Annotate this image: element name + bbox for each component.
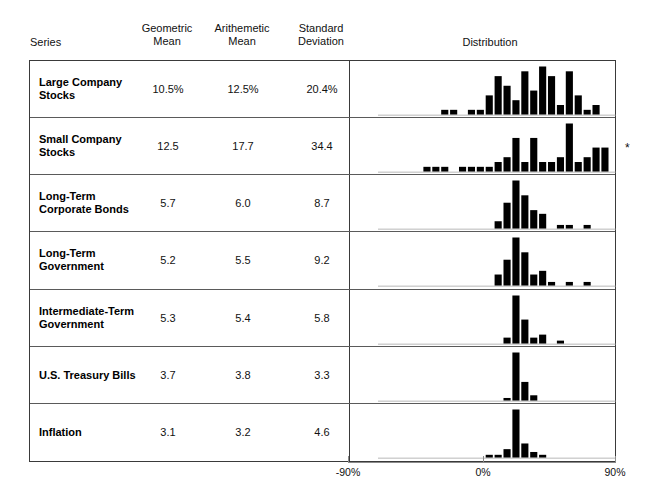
histogram-bar [503,203,510,229]
histogram-bar [503,86,510,115]
table-row: Long-Term Government5.25.59.2 [30,232,615,289]
histogram-bar [521,71,528,114]
histogram-bar [530,210,537,229]
table-row: U.S. Treasury Bills3.73.83.3 [30,347,615,404]
histogram-bar [495,275,502,286]
histogram-bar [566,225,573,229]
histogram-bar [539,271,546,286]
histogram-bar [495,455,502,458]
cell-arithmetic-mean: 6.0 [204,197,282,209]
histogram-bar [548,76,555,115]
histogram-bar [521,319,528,343]
cell-geometric-mean: 3.1 [132,426,204,438]
x-axis-label-zero: 0% [453,466,513,478]
histogram-bar [530,138,537,172]
histogram-bar [521,253,528,286]
x-axis-tick-right [615,456,616,462]
distribution-histogram [350,118,615,174]
histogram-bar [503,398,510,401]
histogram-bar [584,225,591,229]
cell-geometric-mean: 10.5% [132,83,204,95]
histogram-bar [495,162,502,172]
histogram-bar [530,275,537,286]
histogram-bar [423,167,430,172]
histogram-bar [530,452,537,458]
histogram-bar [521,443,528,457]
histogram-bar [557,340,564,343]
histogram-bar [557,157,564,171]
x-axis-tick-left [348,456,349,462]
histogram-bar [530,395,537,400]
distribution-histogram [350,404,615,461]
cell-arithmetic-mean: 17.7 [204,140,282,152]
histogram-bar [601,148,608,172]
histogram-bar [548,162,555,172]
histogram-bar [548,282,555,286]
histogram-bar [539,214,546,229]
histogram-bar [486,95,493,114]
x-axis-tick-center [483,456,484,462]
histogram-bar [539,455,546,458]
histogram-bar [512,352,519,400]
column-header-series: Series [30,36,130,49]
histogram-bar [468,167,475,172]
cell-geometric-mean: 5.3 [132,312,204,324]
distribution-histogram [350,61,615,117]
column-header-geometric-mean: Geometric Mean [131,22,203,47]
histogram-bar [468,110,475,115]
cell-geometric-mean: 12.5 [132,140,204,152]
histogram-bar [503,260,510,286]
histogram-bar [512,138,519,172]
table-row: Long-Term Corporate Bonds5.76.08.7 [30,175,615,232]
histogram-bar [486,455,493,458]
histogram-bar [530,91,537,115]
column-header-arithmetic-mean: Arithemetic Mean [203,22,281,47]
histogram-bar [575,162,582,172]
histogram-bar [557,105,564,115]
histogram-bar [441,167,448,172]
histogram-bar [432,167,439,172]
histogram-bar [539,334,546,343]
distribution-histogram [350,347,615,403]
histogram-bar [477,110,484,115]
distribution-histogram [350,290,615,346]
histogram-bar [512,100,519,114]
cell-geometric-mean: 5.7 [132,197,204,209]
histogram-bar [512,295,519,343]
table-row: Inflation3.13.24.6 [30,404,615,461]
histogram-bar [521,196,528,229]
histogram-bar [592,148,599,172]
distribution-histogram [350,232,615,288]
histogram-bar [495,76,502,115]
histogram-bar [459,167,466,172]
histogram-bar [512,238,519,286]
histogram-bar [592,105,599,115]
histogram-bar [557,225,564,229]
x-axis-line [348,462,616,463]
histogram-bar [486,167,493,172]
histogram-bar [530,337,537,343]
histogram-bar [566,124,573,172]
x-axis-label-max: 90% [585,466,645,478]
histogram-bar [441,110,448,115]
histogram-bar [575,95,582,114]
table-row: Intermediate-Term Government5.35.45.8 [30,290,615,347]
column-header-standard-deviation: Standard Deviation [281,22,361,47]
histogram-bar [566,282,573,286]
histogram-bar [539,66,546,114]
histogram-bar [512,409,519,457]
histogram-bar [539,162,546,172]
histogram-bar [566,71,573,114]
table-row: Large Company Stocks10.5%12.5%20.4% [30,61,615,118]
exhibit-root: Series Geometric Mean Arithemetic Mean S… [0,0,653,491]
histogram-bar [477,167,484,172]
cell-arithmetic-mean: 5.5 [204,254,282,266]
returns-table: Large Company Stocks10.5%12.5%20.4%Small… [29,60,616,462]
cell-geometric-mean: 5.2 [132,254,204,266]
distribution-histogram [350,175,615,231]
x-axis-label-min: -90% [318,466,378,478]
histogram-bar [512,181,519,229]
histogram-bar [584,282,591,286]
footnote-asterisk: * [625,142,630,154]
histogram-bar [495,222,502,229]
